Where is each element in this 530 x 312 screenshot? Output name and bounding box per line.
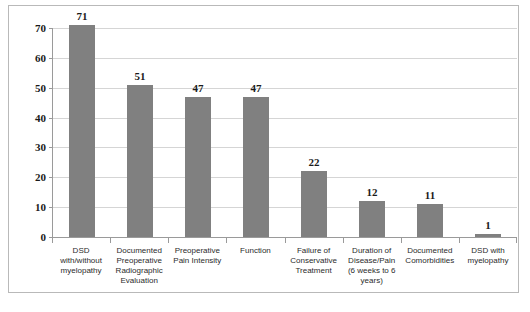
bar[interactable]: 51 xyxy=(127,85,153,237)
x-tick-cell xyxy=(401,238,459,243)
bar[interactable]: 47 xyxy=(185,97,211,237)
bar-slot: 1 xyxy=(459,28,517,237)
bar-slot: 47 xyxy=(227,28,285,237)
bar[interactable]: 47 xyxy=(243,97,269,237)
bar-slot: 71 xyxy=(53,28,111,237)
x-axis-category-label: Duration of Disease/Pain (6 weeks to 6 y… xyxy=(343,246,401,286)
bar[interactable]: 12 xyxy=(359,201,385,237)
x-axis-category-label: DSD with/without myelopathy xyxy=(52,246,110,286)
x-tick-cell xyxy=(52,238,110,243)
bar-value-label: 47 xyxy=(192,82,203,94)
y-tick-label: 50 xyxy=(35,82,46,94)
x-tick-mark xyxy=(459,238,460,243)
x-tick-cell xyxy=(168,238,226,243)
bar-slot: 11 xyxy=(401,28,459,237)
bar[interactable]: 11 xyxy=(417,204,443,237)
bar[interactable]: 22 xyxy=(301,171,327,237)
x-axis-labels: DSD with/without myelopathyDocumented Pr… xyxy=(52,246,517,286)
x-tick-mark xyxy=(110,238,111,243)
y-tick-label: 70 xyxy=(35,22,46,34)
y-tick-label: 10 xyxy=(35,201,46,213)
bar-value-label: 11 xyxy=(425,189,435,201)
bar-slot: 51 xyxy=(111,28,169,237)
y-tick-label: 0 xyxy=(41,231,47,243)
x-axis-ticks xyxy=(52,238,517,243)
x-tick-mark xyxy=(401,238,402,243)
x-tick-cell xyxy=(459,238,517,243)
bar-slot: 12 xyxy=(343,28,401,237)
bar-value-label: 1 xyxy=(485,219,491,231)
y-tick-label: 40 xyxy=(35,112,46,124)
x-tick-cell xyxy=(110,238,168,243)
bar-value-label: 47 xyxy=(250,82,261,94)
x-axis-category-label: Documented Preoperative Radiographic Eva… xyxy=(110,246,168,286)
x-tick-cell xyxy=(343,238,401,243)
y-tick-label: 30 xyxy=(35,141,46,153)
bar-slot: 22 xyxy=(285,28,343,237)
bar[interactable]: 71 xyxy=(69,25,95,237)
y-tick-label: 20 xyxy=(35,171,46,183)
x-tick-cell xyxy=(285,238,343,243)
bar-value-label: 51 xyxy=(134,70,145,82)
x-tick-mark xyxy=(52,238,53,243)
bar-slot: 47 xyxy=(169,28,227,237)
chart-figure: 010203040506070 715147472212111 DSD with… xyxy=(0,0,530,312)
x-axis-category-label: Preoperative Pain Intensity xyxy=(168,246,226,286)
x-tick-mark xyxy=(285,238,286,243)
bar-value-label: 12 xyxy=(366,186,377,198)
chart-frame: 010203040506070 715147472212111 DSD with… xyxy=(8,5,519,293)
x-tick-cell xyxy=(226,238,284,243)
x-axis-category-label: Function xyxy=(226,246,284,286)
bar-value-label: 22 xyxy=(308,156,319,168)
bar-value-label: 71 xyxy=(76,10,87,22)
x-axis-category-label: Documented Comorbidities xyxy=(401,246,459,286)
x-tick-mark xyxy=(343,238,344,243)
x-tick-mark xyxy=(226,238,227,243)
bar[interactable]: 1 xyxy=(475,234,501,237)
x-axis-category-label: Failure of Conservative Treatment xyxy=(285,246,343,286)
x-axis-category-label: DSD with myelopathy xyxy=(459,246,517,286)
x-tick-mark xyxy=(516,238,517,243)
y-tick-label: 60 xyxy=(35,52,46,64)
x-tick-mark xyxy=(168,238,169,243)
plot-area: 010203040506070 715147472212111 xyxy=(52,28,517,238)
bar-series: 715147472212111 xyxy=(53,28,517,237)
